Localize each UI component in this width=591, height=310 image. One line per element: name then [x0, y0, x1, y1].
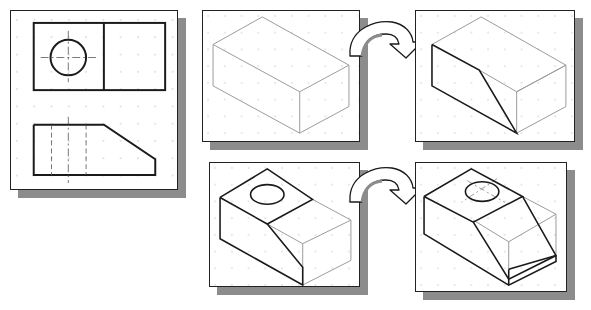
- iso-final-part-panel: [415, 162, 567, 292]
- cut-with-hole-drawing: [210, 163, 359, 286]
- orthographic-views-panel: [10, 10, 178, 190]
- iso-angled-cut-panel: [415, 10, 575, 142]
- curved-arrow-icon: [346, 18, 426, 60]
- curved-arrow-icon: [346, 164, 426, 206]
- iso-base-block-panel: [202, 10, 360, 142]
- iso-cut-with-hole-panel: [209, 162, 360, 287]
- final-part-drawing: [416, 163, 566, 291]
- angled-cut-drawing: [416, 11, 574, 141]
- orthographic-drawing: [11, 11, 177, 189]
- base-block-drawing: [203, 11, 359, 141]
